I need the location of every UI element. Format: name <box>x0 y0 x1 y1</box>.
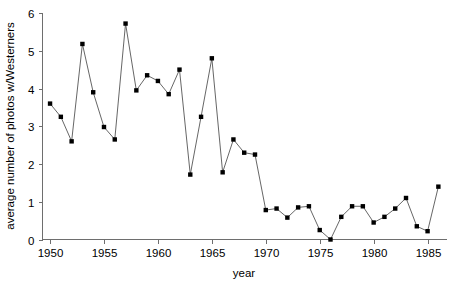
y-axis-title: average number of photos w/Westerners <box>4 22 16 230</box>
y-tick-label: 4 <box>28 84 35 96</box>
x-tick-label: 1985 <box>416 247 442 259</box>
y-tick-label: 1 <box>28 197 34 209</box>
y-tick-labels: 0123456 <box>28 8 35 247</box>
data-point-marker <box>274 206 278 210</box>
data-point-marker <box>167 92 171 96</box>
data-series-line <box>50 24 438 240</box>
data-point-marker <box>253 152 257 156</box>
data-point-marker <box>318 228 322 232</box>
data-point-marker <box>177 67 181 71</box>
x-axis-title: year <box>233 267 256 279</box>
x-tick-label: 1950 <box>38 247 64 259</box>
x-tick-label: 1955 <box>92 247 118 259</box>
data-point-marker <box>371 220 375 224</box>
y-tick-marks <box>39 14 43 241</box>
y-axis-group: 0123456 <box>28 8 42 247</box>
y-tick-label: 5 <box>28 46 34 58</box>
y-tick-label: 2 <box>28 159 34 171</box>
data-point-marker <box>188 172 192 176</box>
data-point-marker <box>134 88 138 92</box>
data-point-marker <box>145 73 149 77</box>
data-point-marker <box>425 229 429 233</box>
data-point-marker <box>220 170 224 174</box>
data-point-marker <box>102 125 106 129</box>
data-point-marker <box>404 196 408 200</box>
x-tick-label: 1960 <box>146 247 172 259</box>
line-chart: 0123456 19501955196019651970197519801985… <box>0 0 449 284</box>
data-point-marker <box>123 21 127 25</box>
y-tick-label: 3 <box>28 121 34 133</box>
data-point-marker <box>242 150 246 154</box>
data-point-marker <box>350 204 354 208</box>
x-tick-labels: 19501955196019651970197519801985 <box>38 247 442 259</box>
data-point-marker <box>156 79 160 83</box>
x-axis-group: 19501955196019651970197519801985 <box>38 240 447 259</box>
chart-container: 0123456 19501955196019651970197519801985… <box>0 0 449 284</box>
x-tick-label: 1980 <box>362 247 388 259</box>
data-point-marker <box>59 115 63 119</box>
data-point-marker <box>264 208 268 212</box>
y-tick-label: 6 <box>28 8 34 20</box>
data-point-marker <box>382 215 386 219</box>
data-point-marker <box>231 137 235 141</box>
data-point-marker <box>91 90 95 94</box>
data-point-marker <box>393 206 397 210</box>
data-point-marker <box>339 215 343 219</box>
data-point-marker <box>113 137 117 141</box>
y-tick-label: 0 <box>28 235 34 247</box>
data-point-marker <box>69 139 73 143</box>
data-point-marker <box>415 224 419 228</box>
x-tick-label: 1965 <box>200 247 226 259</box>
data-point-marker <box>210 56 214 60</box>
data-point-marker <box>296 205 300 209</box>
x-tick-label: 1970 <box>254 247 280 259</box>
data-point-marker <box>361 204 365 208</box>
data-point-marker <box>307 204 311 208</box>
data-point-marker <box>328 237 332 241</box>
data-point-marker <box>199 115 203 119</box>
data-point-marker <box>285 215 289 219</box>
data-point-marker <box>48 101 52 105</box>
data-point-marker <box>80 42 84 46</box>
data-series-points <box>48 21 441 241</box>
x-tick-label: 1975 <box>308 247 334 259</box>
x-tick-marks <box>51 240 429 244</box>
data-point-marker <box>436 184 440 188</box>
